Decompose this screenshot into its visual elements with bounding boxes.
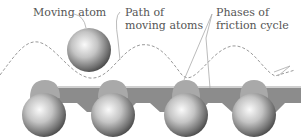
- moving-atom: [67, 28, 111, 72]
- label-phases-line2: friction cycle: [216, 20, 289, 32]
- label-moving-atom: Moving atom: [33, 7, 106, 19]
- leader-path: [116, 12, 120, 60]
- substrate-atom-2: [91, 93, 135, 137]
- substrate-atom-1: [22, 93, 66, 137]
- label-path-line1: Path of: [125, 7, 164, 19]
- leader-end-arrow: [274, 66, 290, 76]
- substrate-atom-3: [164, 93, 208, 137]
- label-phases-line1: Phases of: [216, 7, 269, 19]
- substrate-atom-4: [232, 93, 276, 137]
- label-path-line2: moving atoms: [125, 20, 203, 32]
- atom-path-wave: [0, 42, 295, 78]
